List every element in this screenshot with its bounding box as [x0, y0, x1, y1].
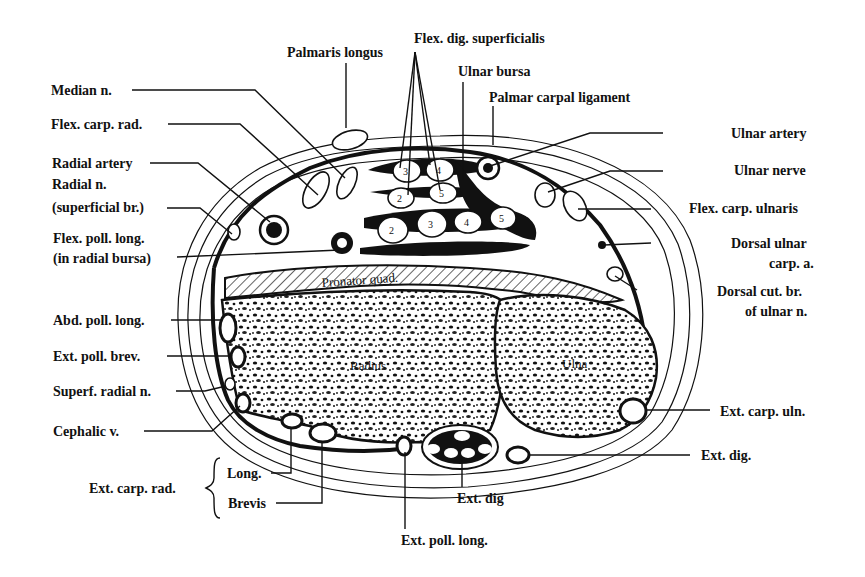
flexor-tendons: 3 4 2 5 2 3 4 5: [360, 158, 536, 255]
ext-dig-tendon-group: [422, 425, 498, 469]
label-median-n: Median n.: [51, 83, 112, 98]
label-radial-n-line2: (superficial br.): [52, 200, 144, 216]
svg-text:2: 2: [397, 193, 402, 204]
radius-label: Radius: [350, 358, 386, 373]
label-flex-dig-superficialis: Flex. dig. superficialis: [414, 31, 545, 46]
ext-poll-brev-tendon: [231, 347, 245, 367]
superf-radial-nerve: [225, 378, 235, 390]
label-ulnar-artery: Ulnar artery: [731, 126, 807, 141]
svg-text:3: 3: [428, 219, 433, 230]
ulnar-nerve: [535, 183, 555, 207]
label-flex-carp-ulnaris: Flex. carp. ulnaris: [689, 201, 798, 216]
flex-carp-ulnaris-tendon: [558, 187, 591, 225]
ext-carp-rad-brevis-tendon: [310, 424, 336, 442]
ext-carp-uln-tendon: [620, 399, 646, 423]
label-dorsal-ulnar-carp-a-line2: carp. a.: [769, 256, 814, 271]
label-ext-carp-uln: Ext. carp. uln.: [720, 404, 805, 419]
svg-text:5: 5: [499, 213, 504, 224]
ext-carp-rad-long-tendon: [282, 414, 302, 428]
label-ext-carp-rad: Ext. carp. rad.: [89, 481, 176, 496]
label-palmar-carpal-ligament: Palmar carpal ligament: [489, 90, 631, 105]
label-radial-artery: Radial artery: [52, 156, 132, 171]
ulna-label: Ulna: [562, 356, 588, 371]
label-dorsal-cut-br-line1: Dorsal cut. br.: [717, 284, 802, 299]
flex-carp-rad-tendon: [297, 168, 334, 213]
svg-text:3: 3: [403, 166, 408, 177]
label-ext-poll-long: Ext. poll. long.: [401, 533, 488, 548]
wrist-cross-section-figure: Radius Ulna Pronator quad. 3 4 2 5 2 3 4…: [0, 0, 865, 577]
cephalic-vein: [236, 394, 250, 412]
label-ulnar-nerve: Ulnar nerve: [734, 163, 806, 178]
label-ulnar-bursa: Ulnar bursa: [458, 64, 530, 79]
label-dorsal-cut-br-line2: of ulnar n.: [745, 304, 807, 319]
label-abd-poll-long: Abd. poll. long.: [53, 313, 144, 328]
svg-text:2: 2: [389, 225, 394, 236]
svg-text:4: 4: [464, 217, 469, 228]
label-ext-dig: Ext. dig.: [701, 448, 751, 463]
label-flex-carp-rad: Flex. carp. rad.: [51, 117, 142, 132]
label-flex-poll-long-line2: (in radial bursa): [53, 251, 151, 267]
label-dorsal-ulnar-carp-a-line1: Dorsal ulnar: [731, 236, 807, 251]
label-superf-radial-n: Superf. radial n.: [53, 384, 151, 399]
label-ext-poll-brev: Ext. poll. brev.: [53, 349, 140, 364]
label-flex-poll-long-line1: Flex. poll. long.: [53, 231, 144, 246]
label-ext-dig-center: Ext. dig: [457, 491, 504, 506]
label-radial-n-line1: Radial n.: [52, 177, 106, 192]
label-palmaris-longus: Palmaris longus: [287, 45, 384, 60]
label-ext-carp-rad-brevis: Brevis: [228, 496, 266, 511]
ext-poll-long-tendon: [397, 437, 411, 455]
label-cephalic-v: Cephalic v.: [53, 424, 119, 439]
ext-dig-minimi-tendon: [507, 447, 529, 463]
abd-poll-long-tendon: [220, 314, 236, 342]
label-ext-carp-rad-long: Long.: [227, 466, 262, 481]
